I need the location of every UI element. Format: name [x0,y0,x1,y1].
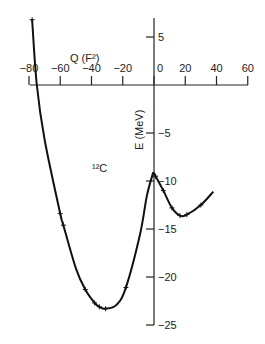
x-tick-label: −20 [113,62,132,74]
y-tick-label: 5 [158,31,164,43]
x-tick-label: 60 [242,62,254,74]
plus-marker-icon [123,285,128,290]
nucleus-annotation: ¹²C [92,162,107,174]
plus-marker-icon [61,223,66,228]
y-tick-label: −25 [158,319,177,331]
y-tick-label: −20 [158,271,177,283]
plus-marker-icon [30,17,35,22]
energy-deformation-chart: −80−60−40−200204060 5−5−10−15−20−25 Q (F… [0,0,265,344]
plus-marker-icon [58,211,63,216]
y-tick-label: −15 [158,223,177,235]
x-tick-label: 0 [157,62,163,74]
y-axis-label: E (MeV) [133,110,145,150]
x-tick-label: 20 [179,62,191,74]
x-tick-label: −60 [51,62,70,74]
x-tick-label: 40 [210,62,222,74]
x-ticks: −80−60−40−200204060 [20,62,254,85]
x-axis-label: Q (F²) [70,52,99,64]
y-tick-label: −5 [158,127,171,139]
plus-marker-icon [103,306,108,311]
